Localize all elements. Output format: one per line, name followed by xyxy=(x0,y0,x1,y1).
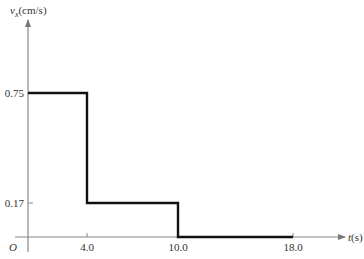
y-axis-label: vx(cm/s) xyxy=(10,4,47,19)
step-chart: vx(cm/s) t(s) O 0.75 0.17 4.0 10.0 18.0 xyxy=(0,0,364,259)
y-tick-label-0.17: 0.17 xyxy=(5,197,25,209)
origin-label: O xyxy=(9,241,17,253)
x-tick-label-4: 4.0 xyxy=(80,241,94,253)
y-tick-label-0.75: 0.75 xyxy=(5,87,25,99)
x-tick-label-10: 10.0 xyxy=(168,241,188,253)
x-tick-label-18: 18.0 xyxy=(283,241,303,253)
x-axis-label: t(s) xyxy=(348,231,363,244)
velocity-step-line xyxy=(28,93,293,237)
